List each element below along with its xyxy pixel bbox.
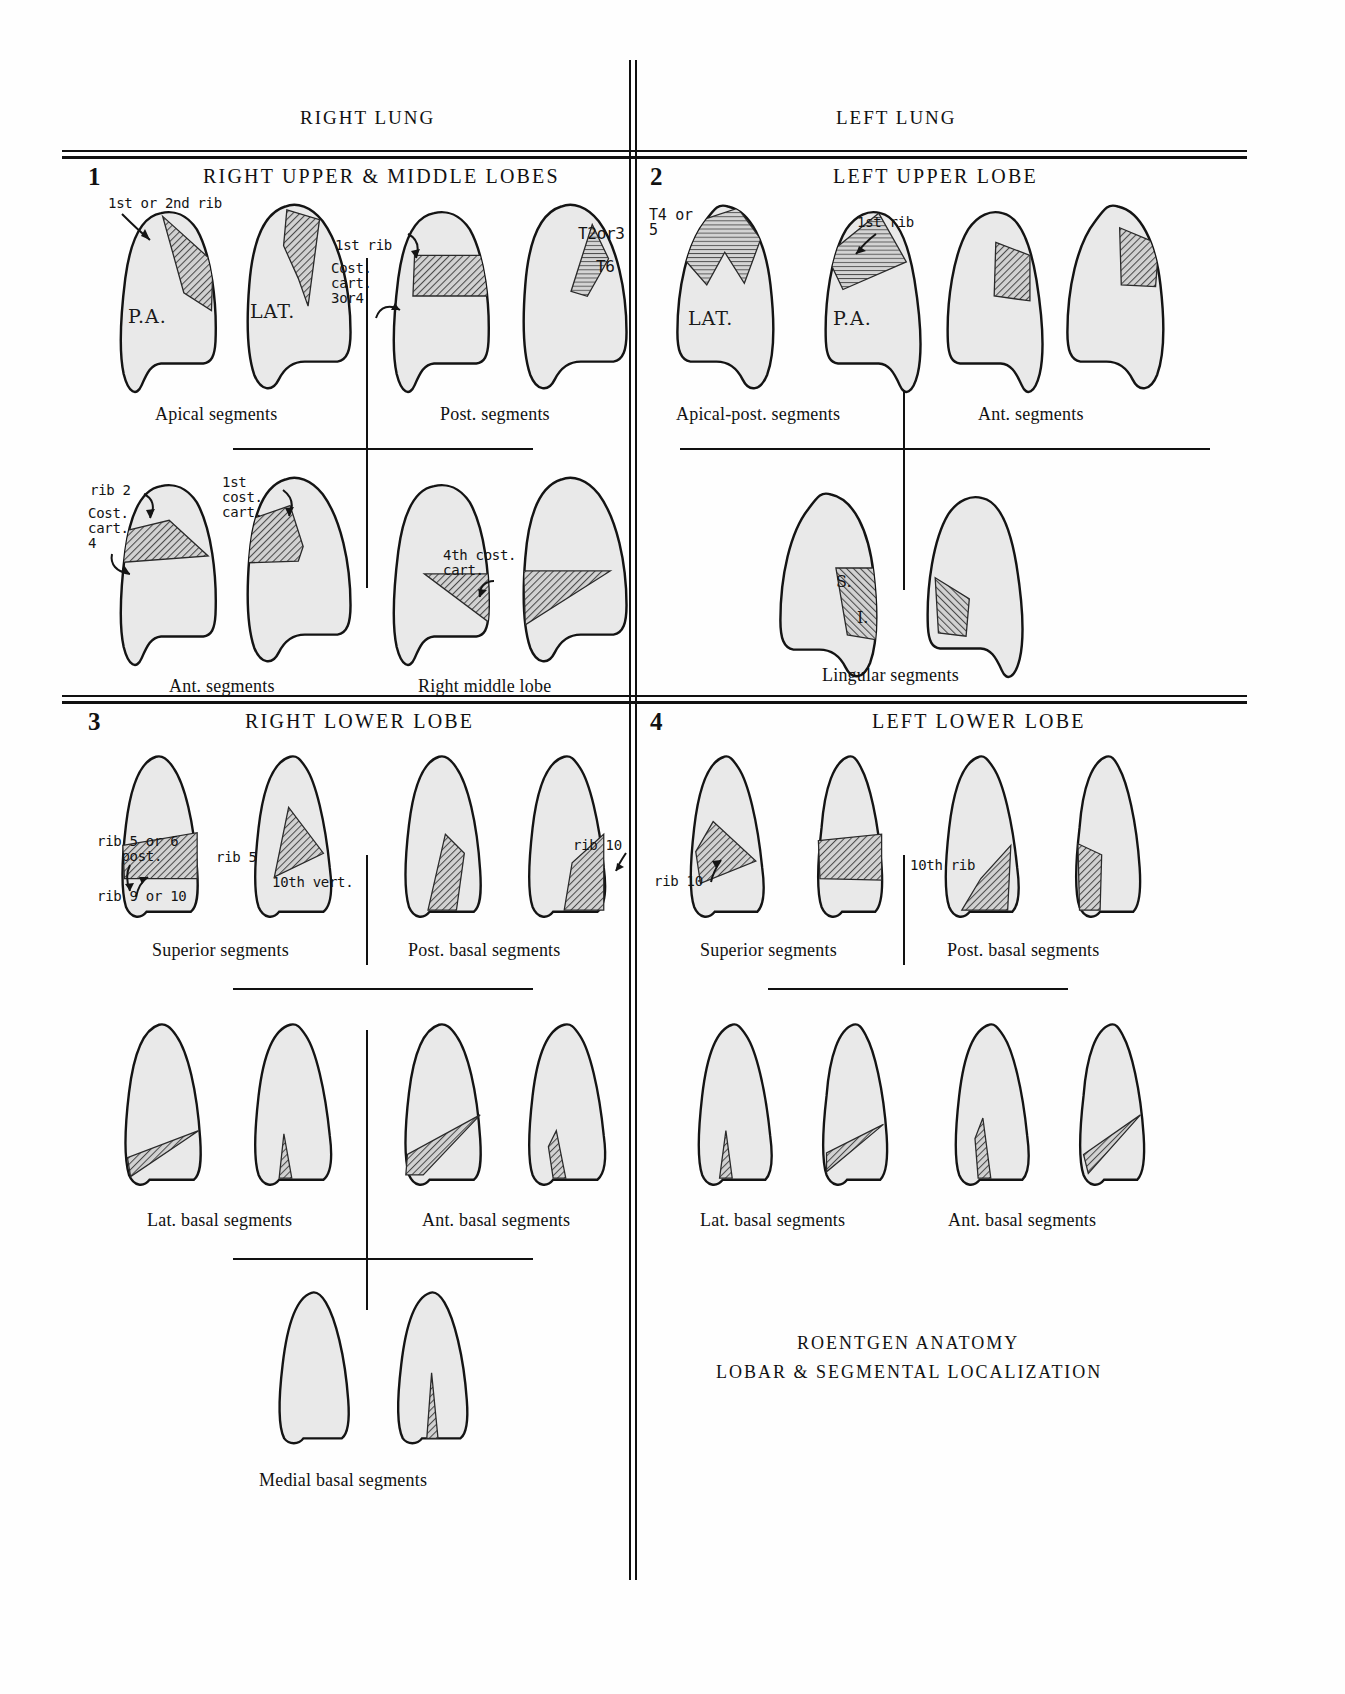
annotation-T2or3: T2or3: [578, 225, 625, 242]
lung-figure-p3-antbasal-2: [500, 1020, 630, 1190]
arrow-rib2: [138, 492, 164, 524]
annotation-4th-cost-cart: 4th cost. cart.: [443, 548, 516, 578]
lung-figure-p1-post-2: [498, 200, 653, 400]
annotation-10th-vert: 10th vert.: [272, 875, 353, 890]
caption-p3-postbasal: Post. basal segments: [408, 940, 561, 961]
annotation-1st-rib-p1: 1st rib: [335, 238, 392, 253]
annotation-rib2: rib 2: [90, 483, 131, 498]
lung-figure-p4-latbasal-1: [668, 1020, 798, 1190]
annotation-1st-cost-cart: 1st cost. cart.: [222, 475, 263, 520]
annotation-1st-rib-p2: 1st rib: [857, 215, 914, 230]
lingular-superior-label: S.: [836, 572, 851, 591]
arrow-cost-cart-4: [108, 552, 138, 582]
header-right-lung: RIGHT LUNG: [300, 107, 435, 129]
arrow-1st-rib-p2: [852, 232, 882, 260]
lung-figure-p4-latbasal-2: [795, 1020, 915, 1190]
annotation-cost-cart-3or4: Cost. cart. 3or4: [331, 261, 372, 306]
annotation-T6: T6: [596, 258, 615, 275]
panel-3-title: RIGHT LOWER LOBE: [245, 710, 474, 733]
caption-p4-postbasal: Post. basal segments: [947, 940, 1100, 961]
caption-p2-apicalpost: Apical-post. segments: [676, 404, 840, 425]
lung-figure-p4-antbasal-1: [925, 1020, 1055, 1190]
caption-p2-ant: Ant. segments: [978, 404, 1084, 425]
panel-2-number: 2: [650, 163, 663, 191]
arrow-1st-cost-cart: [277, 488, 303, 522]
anatomy-chart-page: RIGHT LUNG LEFT LUNG 1 RIGHT UPPER & MID…: [0, 0, 1345, 1694]
arrow-rib9or10: [132, 875, 154, 899]
caption-p1-ant: Ant. segments: [169, 676, 275, 697]
caption-p4-antbasal: Ant. basal segments: [948, 1210, 1096, 1231]
lung-figure-p4-postbasal-2: [1048, 752, 1168, 922]
annotation-rib5: rib 5: [216, 850, 257, 865]
annotation-10th-rib-p4: 10th rib: [910, 858, 975, 873]
caption-p1-apical: Apical segments: [155, 404, 277, 425]
lung-figure-p3-latbasal-1: [98, 1020, 228, 1190]
footer-line-1: ROENTGEN ANATOMY: [797, 1333, 1019, 1354]
arrow-cost-cart-3or4: [374, 300, 404, 326]
lung-figure-p3-sup-2: [226, 752, 356, 922]
sep-panel4-rows: [768, 988, 1068, 990]
view-label-p2-pa: P.A.: [833, 307, 872, 329]
lung-figure-p4-antbasal-2: [1052, 1020, 1172, 1190]
sep-panel3-rows-2: [233, 1258, 533, 1260]
annotation-T4or5: T4 or 5: [649, 208, 693, 238]
lung-figure-p3-medbasal-2: [370, 1288, 490, 1448]
view-label-p1-pa: P.A.: [128, 305, 167, 327]
lung-figure-p3-medbasal-1: [253, 1288, 373, 1448]
panel-4-number: 4: [650, 708, 663, 736]
annotation-rib10-p4: rib 10: [654, 874, 703, 889]
arrow-rib10-p4: [705, 858, 727, 886]
arrow-1st-rib-p1: [404, 232, 430, 266]
caption-p3-medbasal: Medial basal segments: [259, 1470, 427, 1491]
panel-1-number: 1: [88, 163, 101, 191]
lung-figure-p4-postbasal-1: [915, 752, 1045, 922]
caption-p1-post: Post. segments: [440, 404, 550, 425]
view-label-p2-lat: LAT.: [688, 307, 733, 329]
panel-3-number: 3: [88, 708, 101, 736]
caption-p3-antbasal: Ant. basal segments: [422, 1210, 570, 1231]
sep-panel2-rows: [680, 448, 1210, 450]
lingular-inferior-label: I.: [857, 608, 868, 627]
lung-figure-p4-sup-2: [790, 752, 910, 922]
arrow-4th-cost-cart: [474, 577, 500, 603]
annotation-cost-cart-4: Cost. cart. 4: [88, 506, 129, 551]
sep-panel3-cols-bot: [366, 1030, 368, 1310]
header-left-lung: LEFT LUNG: [836, 107, 957, 129]
caption-p3-superior: Superior segments: [152, 940, 289, 961]
footer-line-2: LOBAR & SEGMENTAL LOCALIZATION: [716, 1362, 1102, 1383]
caption-p4-superior: Superior segments: [700, 940, 837, 961]
lung-figure-p3-postbasal-1: [378, 752, 508, 922]
caption-p1-middle: Right middle lobe: [418, 676, 551, 697]
lung-figure-p2-lingular-2: [900, 490, 1050, 685]
panel-4-title: LEFT LOWER LOBE: [872, 710, 1086, 733]
caption-p4-latbasal: Lat. basal segments: [700, 1210, 845, 1231]
lung-figure-p1-middle-2: [498, 473, 653, 673]
caption-p2-lingular: Lingular segments: [822, 665, 959, 686]
sep-panel3-cols-top: [366, 855, 368, 965]
caption-p3-latbasal: Lat. basal segments: [147, 1210, 292, 1231]
lung-figure-p2-ant-2: [1045, 200, 1200, 400]
annotation-1st-or-2nd-rib: 1st or 2nd rib: [108, 196, 222, 211]
panel-2-title: LEFT UPPER LOBE: [833, 165, 1038, 188]
arrow-rib10-p3: [612, 851, 634, 877]
annotation-rib5or6-post: rib 5 or 6 post.: [97, 834, 178, 864]
view-label-p1-lat: LAT.: [250, 300, 295, 322]
lung-figure-p4-sup-1: [660, 752, 790, 922]
arrow-1st-or-2nd-rib: [120, 212, 170, 252]
lung-figure-p3-latbasal-2: [226, 1020, 356, 1190]
panel-1-title: RIGHT UPPER & MIDDLE LOBES: [203, 165, 560, 188]
sep-panel1-rows: [233, 448, 533, 450]
lung-figure-p3-antbasal-1: [378, 1020, 508, 1190]
sep-panel3-rows-1: [233, 988, 533, 990]
